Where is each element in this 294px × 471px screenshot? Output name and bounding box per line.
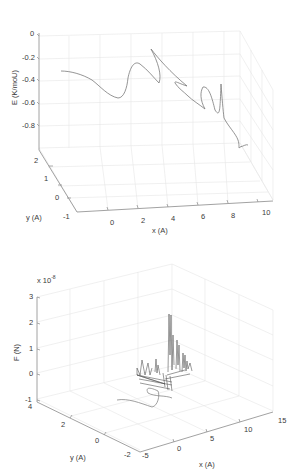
z-tick-label: -0.6 (22, 99, 35, 107)
x-tick-label: 5 (210, 435, 214, 443)
y-tick-label: 4 (28, 403, 32, 411)
y-axis-label: y (A) (26, 214, 42, 222)
x-tick-label: 4 (171, 215, 175, 223)
x-tick-label: 0 (110, 219, 114, 227)
energy-plot-canvas (0, 0, 294, 235)
x-tick-label: 10 (262, 209, 270, 217)
z-axis-label: E (K/moU) (11, 70, 19, 105)
x-tick-label: 15 (278, 417, 286, 425)
force-trajectory-base (117, 388, 172, 407)
z-tick-label: -0.2 (22, 54, 35, 62)
z-axis-label: F (N) (13, 344, 21, 361)
y-tick-label: 2 (61, 421, 65, 429)
z-tick-label: 2 (29, 319, 33, 327)
x-tick-label: 8 (231, 212, 235, 220)
x-tick-label: 10 (244, 426, 252, 434)
x-tick-label: 0 (177, 445, 181, 453)
y-axis-label: y (A) (70, 454, 86, 462)
force-3d-plot: x 10-8 3 2 1 0 -1 F (N) 4 2 0 -2 y (A) -… (0, 235, 294, 471)
energy-3d-plot: 0 -0.2 -0.4 -0.6 -0.8 E (K/moU) 2 1 0 -1… (0, 0, 294, 235)
x-axis-label: x (A) (199, 461, 215, 469)
z-tick-label: 1 (29, 345, 33, 353)
z-tick-label: -0.4 (22, 76, 35, 84)
x-axis-label: x (A) (152, 227, 168, 235)
z-tick-label: 3 (29, 293, 33, 301)
x-tick-label: 2 (141, 217, 145, 225)
z-tick-label: 0 (30, 30, 34, 38)
y-tick-label: 0 (55, 194, 59, 202)
x-tick-label: 6 (201, 213, 205, 221)
energy-trajectory-line (61, 49, 248, 148)
y-tick-label: 1 (44, 175, 48, 183)
y-tick-label: -2 (124, 451, 131, 459)
y-tick-label: 2 (34, 157, 38, 165)
x-tick-label: -5 (142, 452, 149, 460)
y-tick-label: -1 (63, 213, 70, 221)
force-plot-canvas (0, 235, 294, 471)
z-tick-label: -0.8 (22, 122, 35, 130)
z-tick-label: 0 (29, 370, 33, 378)
y-tick-label: 0 (95, 437, 99, 445)
z-scale-factor: x 10-8 (37, 275, 56, 284)
force-spikes (137, 314, 192, 391)
